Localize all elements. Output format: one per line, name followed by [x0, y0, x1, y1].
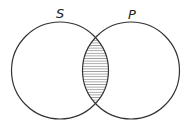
label-p: P — [128, 7, 136, 22]
venn-diagram: S P — [0, 0, 189, 126]
label-s: S — [56, 6, 64, 21]
